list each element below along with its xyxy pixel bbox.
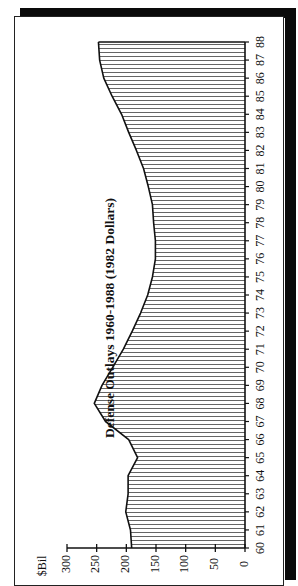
x-tick-label: 78 — [253, 217, 267, 229]
x-tick-label: 72 — [253, 325, 267, 337]
x-tick-label: 86 — [253, 72, 267, 84]
y-tick-label: 0 — [237, 561, 251, 567]
x-tick-label: 75 — [253, 271, 267, 283]
y-tick-label: 200 — [118, 555, 132, 573]
x-tick-label: 76 — [253, 253, 267, 265]
y-axis-unit-label: $Bil — [35, 555, 49, 576]
x-tick-label: 77 — [253, 235, 267, 247]
x-tick-label: 85 — [253, 90, 267, 102]
x-tick-label: 87 — [253, 54, 267, 66]
y-tick-label: 150 — [148, 555, 162, 573]
x-tick-label: 70 — [253, 361, 267, 373]
x-tick-label: 83 — [253, 126, 267, 138]
x-tick-label: 73 — [253, 307, 267, 319]
x-tick-label: 62 — [253, 506, 267, 518]
x-tick-label: 63 — [253, 488, 267, 500]
x-tick-label: 66 — [253, 434, 267, 446]
y-tick-label: 250 — [88, 555, 102, 573]
x-tick-label: 74 — [253, 289, 267, 301]
x-tick-label: 60 — [253, 542, 267, 554]
x-tick-label: 69 — [253, 379, 267, 391]
x-tick-label: 68 — [253, 397, 267, 409]
x-tick-label: 88 — [253, 36, 267, 48]
y-tick-label: 300 — [59, 555, 73, 573]
x-tick-label: 61 — [253, 524, 267, 536]
x-tick-label: 81 — [253, 163, 267, 175]
chart-title: Defense Outlays 1960-1988 (1982 Dollars) — [102, 198, 117, 438]
y-tick-label: 100 — [177, 555, 191, 573]
x-tick-label: 82 — [253, 144, 267, 156]
x-tick-label: 64 — [253, 470, 267, 482]
y-tick-label: 50 — [207, 558, 221, 570]
x-tick-label: 71 — [253, 343, 267, 355]
x-tick-label: 84 — [253, 108, 267, 120]
x-tick-label: 80 — [253, 181, 267, 193]
x-tick-label: 79 — [253, 199, 267, 211]
x-tick-label: 67 — [253, 416, 267, 428]
x-tick-label: 65 — [253, 452, 267, 464]
